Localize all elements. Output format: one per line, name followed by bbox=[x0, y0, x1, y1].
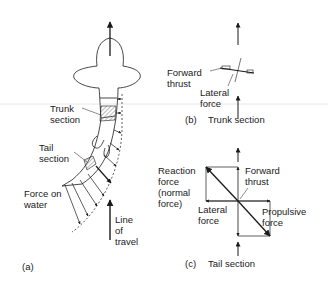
tail-leader bbox=[74, 152, 87, 162]
fish-swimming-force-diagram: Trunk section Tail section Force on wate… bbox=[0, 0, 328, 283]
panel-c-caption-letter: (c) bbox=[185, 258, 196, 269]
trunk-forward-thrust-label: Forward thrust bbox=[167, 67, 202, 89]
tail-section-label: Tail section bbox=[39, 142, 69, 164]
panel-a-caption: (a) bbox=[22, 261, 34, 272]
tail-lateral-force-label: Lateral force bbox=[198, 204, 227, 226]
panel-b-caption-title: Trunk section bbox=[208, 114, 265, 125]
tail-forward-thrust-label: Forward thrust bbox=[245, 165, 280, 187]
tail-section-hatch bbox=[84, 156, 96, 170]
panel-c-caption-title: Tail section bbox=[208, 258, 255, 269]
trunk-lateral-force-label: Lateral force bbox=[200, 87, 229, 109]
force-on-water-label: Force on water bbox=[24, 188, 62, 210]
propulsive-force-label: Propulsive force bbox=[262, 206, 306, 228]
trunk-leader bbox=[82, 108, 101, 115]
trunk-section-hatch bbox=[100, 106, 116, 121]
trunk-section-label: Trunk section bbox=[50, 103, 80, 125]
line-of-travel-label: Line of travel bbox=[115, 214, 138, 247]
panel-b-caption-letter: (b) bbox=[185, 114, 197, 125]
reaction-force-label: Reaction force (normal force) bbox=[158, 165, 196, 209]
